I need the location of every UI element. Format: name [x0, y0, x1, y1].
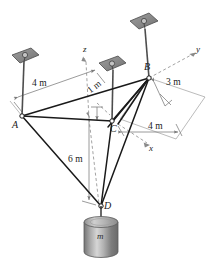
dimension-label-3m: 3 m	[166, 78, 181, 88]
eyebolt-ring-C	[109, 61, 114, 66]
point-label-B: B	[144, 62, 150, 72]
member-A-C	[22, 116, 112, 121]
y-axis-arrow	[189, 53, 196, 57]
dimension-label-4m-right: 4 m	[148, 122, 163, 132]
point-label-C: C	[110, 124, 117, 134]
mass-label: m	[97, 232, 104, 241]
axis-label-z: z	[83, 45, 87, 54]
eyebolt-ring-A	[22, 52, 27, 57]
structure-members	[22, 78, 149, 206]
eyebolt-ring-B	[141, 18, 146, 23]
cable-B-D	[101, 78, 149, 206]
dimension-label-6m: 6 m	[68, 155, 83, 165]
dim-line-4m-left	[18, 70, 95, 97]
statics-diagram-svg	[0, 0, 210, 264]
axis-label-x: x	[149, 144, 153, 153]
dim-line-3m-a	[154, 82, 165, 106]
point-label-D: D	[104, 201, 111, 211]
point-label-A: A	[12, 120, 18, 130]
member-B-base	[118, 78, 149, 124]
axis-label-y: y	[196, 45, 200, 54]
tick-6m-bottom	[82, 201, 96, 205]
dimension-label-4m-left: 4 m	[32, 79, 47, 89]
